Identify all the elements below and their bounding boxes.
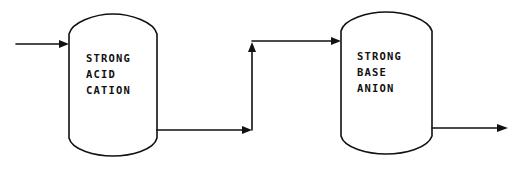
interconnect-flow-line [157,37,341,134]
vessel-1-label-line-2: ACID [86,68,116,80]
vessel-1-label-line-3: CATION [86,84,131,96]
inlet-flow-line [16,40,69,48]
vessel-strong-acid-cation: STRONG ACID CATION [69,14,157,156]
vessel-strong-base-anion: STRONG BASE ANION [341,12,432,154]
outlet-arrowhead-icon [497,124,508,132]
interconnect-arrowhead-right-icon [242,126,252,134]
interconnect-arrowhead-up-icon [248,42,256,52]
vessel-2-label-line-1: STRONG [357,50,402,62]
ion-exchange-diagram: STRONG ACID CATION STRONG BASE ANION [0,0,522,169]
vessel-2-label-line-2: BASE [357,66,387,78]
inlet-arrowhead-icon [59,40,69,48]
vessel-2-label-line-3: ANION [357,82,395,94]
vessel-1-label-line-1: STRONG [86,52,131,64]
outlet-flow-line [432,124,508,132]
interconnect-arrowhead-into-vessel-icon [331,37,341,45]
